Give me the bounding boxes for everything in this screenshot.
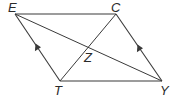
label-t: T	[54, 83, 63, 97]
parallelogram-diagram: E C T Y Z	[0, 0, 175, 97]
label-c: C	[111, 0, 121, 15]
label-z: Z	[83, 50, 93, 65]
label-e: E	[8, 0, 17, 15]
diagonal-tc	[60, 14, 116, 81]
parallel-arrow-icon-et	[35, 44, 41, 52]
label-y: Y	[160, 83, 170, 97]
